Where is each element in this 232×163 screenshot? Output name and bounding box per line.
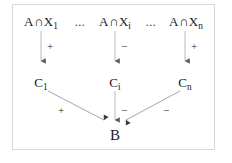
intersection-icon: ∩ — [33, 14, 43, 29]
node-c-i-subscript: i — [118, 82, 121, 92]
node-c-i-base: C — [109, 75, 118, 90]
node-b: B — [110, 128, 120, 143]
edge-cn-b — [126, 91, 180, 120]
node-top-i-base: A — [99, 14, 108, 29]
node-c-n: Cn — [178, 76, 191, 89]
sign-edge-cn-b: − — [163, 105, 169, 116]
sign-edge-ci-b: − — [121, 105, 127, 116]
node-top-n-base: A — [169, 14, 178, 29]
node-top-i-variable: X — [119, 14, 128, 29]
ellipsis-left: ... — [75, 16, 86, 28]
sign-edge-topn-cn: + — [191, 41, 197, 52]
node-top-n-variable: X — [189, 14, 198, 29]
sign-edge-top1-c1: + — [47, 41, 53, 52]
ellipsis-right: ... — [146, 16, 157, 28]
node-c-n-base: C — [178, 75, 187, 90]
intersection-icon: ∩ — [109, 14, 119, 29]
node-c-i: Ci — [109, 76, 120, 89]
intersection-icon: ∩ — [178, 14, 188, 29]
node-top-n: A∩Xn — [169, 15, 203, 28]
diagram-root: A∩X1 ... A∩Xi ... A∩Xn + − + C1 Ci Cn + … — [0, 0, 232, 163]
sign-edge-c1-b: + — [58, 105, 64, 116]
edge-c1-b — [48, 91, 104, 120]
node-top-1-subscript: 1 — [53, 21, 58, 31]
node-c-n-subscript: n — [187, 82, 192, 92]
node-top-1-variable: X — [44, 14, 53, 29]
node-top-1: A∩X1 — [24, 15, 58, 28]
node-top-i: A∩Xi — [99, 15, 131, 28]
node-top-1-base: A — [24, 14, 33, 29]
node-c-1-subscript: 1 — [43, 82, 48, 92]
node-c-1-base: C — [34, 75, 43, 90]
sign-edge-topi-ci: − — [121, 41, 127, 52]
node-c-1: C1 — [34, 76, 47, 89]
node-top-n-subscript: n — [198, 21, 203, 31]
node-top-i-subscript: i — [128, 21, 131, 31]
